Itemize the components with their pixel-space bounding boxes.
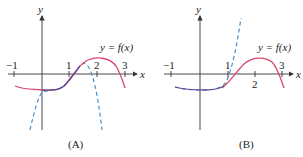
- tick-label: 3: [122, 59, 128, 71]
- y-axis-label: y: [37, 3, 43, 15]
- panel-caption: (B): [239, 138, 254, 151]
- panel-caption: (A): [68, 138, 84, 151]
- tick-label: 1: [225, 59, 231, 71]
- x-axis-label: x: [139, 68, 145, 80]
- y-axis-label: y: [195, 3, 201, 15]
- overlap-curve: [42, 66, 80, 90]
- x-axis-label: x: [295, 68, 301, 80]
- tick-label: 1: [66, 59, 72, 71]
- tick-label: 3: [279, 59, 285, 71]
- tick-label: −1: [163, 59, 175, 71]
- tick-label: −1: [6, 59, 18, 71]
- panel-b: −1 1 2 3 x y y = f(x) (B): [163, 3, 301, 151]
- panel-a: −1 1 2 3 x y y = f(x) (A): [6, 3, 145, 151]
- curve-label: y = f(x): [99, 41, 133, 54]
- approximation-curve: [30, 63, 102, 130]
- curve-label: y = f(x): [257, 41, 291, 54]
- figure: −1 1 2 3 x y y = f(x) (A) −1 1 2 3 x y y…: [0, 0, 303, 157]
- tick-label: 2: [252, 78, 258, 90]
- tick-label: 2: [94, 59, 100, 71]
- overlap-curve: [175, 86, 224, 90]
